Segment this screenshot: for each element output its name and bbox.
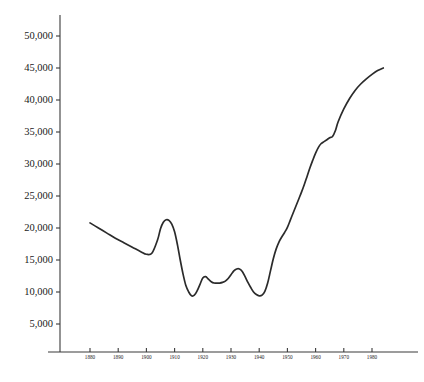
x-axis: 1880189019001910192019301940195019601970…	[48, 348, 418, 360]
x-tick-label: 1880	[85, 354, 96, 360]
data-series-line	[90, 68, 383, 296]
x-tick-label: 1900	[141, 354, 152, 360]
x-tick-label: 1890	[113, 354, 124, 360]
y-tick-label: 15,000	[24, 254, 53, 265]
y-tick-label: 45,000	[24, 62, 53, 73]
y-axis: 5,00010,00015,00020,00025,00030,00035,00…	[24, 15, 60, 352]
x-tick-label: 1970	[339, 354, 350, 360]
x-tick-label: 1960	[310, 354, 321, 360]
y-tick-group: 5,00010,00015,00020,00025,00030,00035,00…	[24, 30, 60, 329]
x-tick-label: 1910	[169, 354, 180, 360]
chart-canvas: 5,00010,00015,00020,00025,00030,00035,00…	[0, 0, 424, 382]
series-group	[90, 68, 383, 296]
y-tick-label: 10,000	[24, 286, 53, 297]
y-tick-label: 50,000	[24, 30, 53, 41]
x-tick-group: 1880189019001910192019301940195019601970…	[85, 348, 378, 360]
y-tick-label: 30,000	[24, 158, 53, 169]
x-tick-label: 1930	[226, 354, 237, 360]
x-tick-label: 1940	[254, 354, 265, 360]
line-chart: 5,00010,00015,00020,00025,00030,00035,00…	[0, 0, 424, 382]
y-tick-label: 5,000	[29, 318, 53, 329]
x-tick-label: 1950	[282, 354, 293, 360]
y-tick-label: 40,000	[24, 94, 53, 105]
y-tick-label: 35,000	[24, 126, 53, 137]
y-tick-label: 25,000	[24, 190, 53, 201]
y-tick-label: 20,000	[24, 222, 53, 233]
x-tick-label: 1920	[198, 354, 209, 360]
x-tick-label: 1980	[367, 354, 378, 360]
